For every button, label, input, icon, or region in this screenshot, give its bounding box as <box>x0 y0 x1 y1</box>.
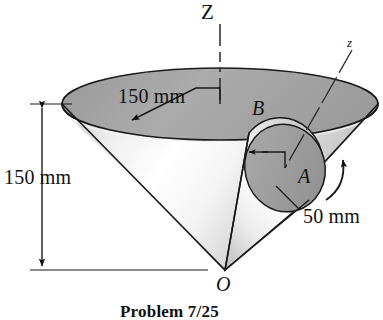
figure-caption: Problem 7/25 <box>120 303 219 320</box>
radius-dimension-label: 150 mm <box>118 86 185 106</box>
body-label-A: A <box>298 166 310 186</box>
problem-figure: Z z 150 mm B A 150 mm 50 mm O Problem 7/… <box>0 0 383 320</box>
axis-label-Z: Z <box>201 2 214 23</box>
small-radius-dimension-label: 50 mm <box>303 206 360 226</box>
cone-diagram-svg <box>0 0 383 320</box>
rotation-arrow-arc <box>326 160 343 200</box>
rotation-arrow <box>326 160 343 200</box>
body-label-B: B <box>252 98 264 118</box>
height-dimension-label: 150 mm <box>4 167 71 187</box>
apex-label-O: O <box>216 274 230 294</box>
axis-label-z: z <box>347 36 352 49</box>
